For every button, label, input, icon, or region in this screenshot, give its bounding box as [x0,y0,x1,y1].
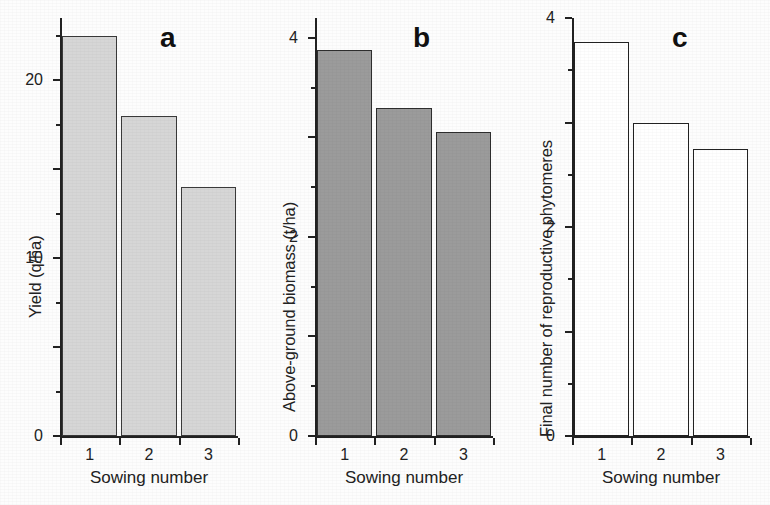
x-axis-tick [374,438,376,445]
y-axis-tick: 6 [308,136,315,138]
plot-area-c: 02468123 [572,18,750,438]
y-axis-minor-tick [56,391,60,393]
x-axis-tick-label: 3 [716,446,725,464]
y-axis-tick: 30 [53,168,60,170]
bar [181,187,236,436]
x-axis-tick [434,438,436,445]
y-axis-tick: 2 [308,335,315,337]
y-axis-minor-tick [568,69,572,71]
y-axis-tick-label: 0 [289,427,298,445]
x-axis-tick [493,438,495,445]
x-axis-tick [179,438,181,445]
y-axis-minor-tick [311,385,315,387]
y-axis-minor-tick [56,213,60,215]
y-axis-tick-label: 10 [25,249,43,267]
y-axis-tick: 4 [308,236,315,238]
y-axis-tick-label: 4 [546,9,555,27]
y-axis-minor-tick [56,302,60,304]
plot-area-b: 02468123 [315,18,493,438]
y-axis-tick: 40 [53,79,60,81]
y-axis-tick: 2 [565,331,572,333]
y-axis-tick-label: 20 [25,71,43,89]
x-axis-tick [691,438,693,445]
x-axis-tick-label: 2 [145,446,154,464]
x-axis-tick-label: 2 [657,446,666,464]
x-axis-tick-label: 3 [459,446,468,464]
y-axis-minor-tick [56,124,60,126]
y-axis-tick: 4 [565,226,572,228]
y-axis-tick: 8 [308,37,315,39]
y-axis-tick: 0 [308,435,315,437]
x-axis-title: Sowing number [60,468,238,488]
bar [693,149,748,436]
y-axis-tick: 8 [565,17,572,19]
panel-letter-b: b [413,22,430,54]
y-axis-tick: 0 [53,435,60,437]
x-axis-tick [631,438,633,445]
y-axis-tick-label: 0 [34,427,43,445]
chart-panel-a: Yield (q/ha) 010203040123 a Sowing numbe… [0,0,258,505]
chart-panel-b: Above-ground biomass (t/ha) 02468123 b S… [255,0,513,505]
x-axis-line [315,436,493,438]
bar [317,50,372,436]
y-axis-tick-label: 4 [289,29,298,47]
y-axis-tick-label: 2 [289,228,298,246]
y-axis-tick: 20 [53,257,60,259]
x-axis-tick-label: 1 [340,446,349,464]
y-axis-minor-tick [311,186,315,188]
y-axis-tick: 10 [53,346,60,348]
y-axis-tick: 0 [565,435,572,437]
y-axis-minor-tick [568,278,572,280]
x-axis-tick [572,438,574,445]
x-axis-tick-label: 3 [204,446,213,464]
x-axis-tick-label: 1 [597,446,606,464]
y-axis-minor-tick [311,286,315,288]
bar [574,42,629,436]
bar [633,123,688,437]
x-axis-tick [750,438,752,445]
bar [376,108,431,436]
y-axis-title: Yield (q/ha) [26,235,45,318]
x-axis-tick [315,438,317,445]
bar [121,116,176,436]
figure-three-panel-bar-charts: Yield (q/ha) 010203040123 a Sowing numbe… [0,0,770,505]
x-axis-line [572,436,750,438]
y-axis-minor-tick [56,35,60,37]
panel-letter-a: a [160,22,176,54]
y-axis-tick-label: 2 [546,218,555,236]
x-axis-tick [60,438,62,445]
x-axis-title: Sowing number [315,468,493,488]
y-axis-tick-label: 0 [546,427,555,445]
x-axis-tick [238,438,240,445]
x-axis-tick-label: 1 [85,446,94,464]
y-axis-minor-tick [568,383,572,385]
bar [436,132,491,436]
x-axis-tick-label: 2 [400,446,409,464]
y-axis-tick: 6 [565,122,572,124]
y-axis-minor-tick [311,87,315,89]
x-axis-title: Sowing number [572,468,750,488]
plot-area-a: 010203040123 [60,18,238,438]
y-axis-minor-tick [568,174,572,176]
x-axis-tick [119,438,121,445]
x-axis-line [60,436,238,438]
panel-letter-c: c [672,22,688,54]
bar [62,36,117,436]
y-axis-title: Final number of reproductive phytomeres [537,140,556,437]
chart-panel-c: Final number of reproductive phytomeres … [512,0,770,505]
